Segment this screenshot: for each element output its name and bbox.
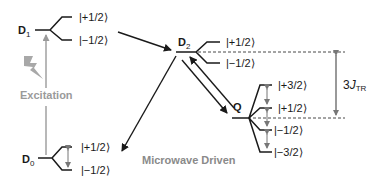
q-ket-minus-3-2: |−3/2⟩ xyxy=(274,146,303,158)
splitting-label: 3JTR xyxy=(343,78,367,93)
d0-label: D0 xyxy=(22,153,35,168)
state-d1: D1 |+1/2⟩ |−1/2⟩ xyxy=(18,11,108,46)
q-ket-minus-1-2: |−1/2⟩ xyxy=(274,124,303,136)
lightning-icon xyxy=(24,56,43,79)
arrow-d2-to-q xyxy=(182,60,227,113)
q-label: Q xyxy=(233,101,242,113)
d0-levels xyxy=(38,147,72,170)
state-d0: D0 |+1/2⟩ |−1/2⟩ xyxy=(22,141,110,176)
d2-ket-plus: |+1/2⟩ xyxy=(226,36,255,48)
d1-label: D1 xyxy=(18,24,31,39)
d1-ket-minus: |−1/2⟩ xyxy=(79,34,108,46)
excitation-label: Excitation xyxy=(20,89,73,101)
d0-ket-minus: |−1/2⟩ xyxy=(81,164,110,176)
q-levels xyxy=(232,85,272,152)
d0-ket-plus: |+1/2⟩ xyxy=(81,141,110,153)
arrow-d2-to-d0 xyxy=(122,56,176,151)
q-ket-plus-1-2: |+1/2⟩ xyxy=(278,102,307,114)
d1-levels xyxy=(35,17,72,40)
arrow-d1-to-d2 xyxy=(118,32,171,50)
state-q: Q |+3/2⟩ |+1/2⟩ |−1/2⟩ |−3/2⟩ xyxy=(232,79,307,158)
q-ket-plus-3-2: |+3/2⟩ xyxy=(278,79,307,91)
d1-ket-plus: |+1/2⟩ xyxy=(79,11,108,23)
energy-level-diagram: D1 |+1/2⟩ |−1/2⟩ D2 |+1/2⟩ |−1/2⟩ Q |+3/… xyxy=(0,0,379,181)
microwave-label: Microwave Driven xyxy=(142,154,236,166)
d2-ket-minus: |−1/2⟩ xyxy=(226,57,255,69)
d2-label: D2 xyxy=(178,36,191,51)
state-d2: D2 |+1/2⟩ |−1/2⟩ xyxy=(176,36,255,69)
